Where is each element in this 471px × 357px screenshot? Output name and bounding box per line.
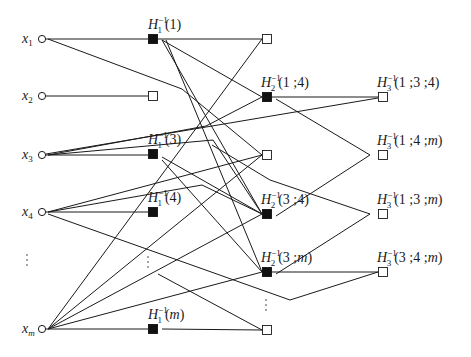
node-label: H−11(4)	[147, 188, 182, 208]
layer1-node-h1_2	[149, 92, 158, 101]
edge	[48, 155, 262, 329]
layer2-node-h2_a	[263, 35, 272, 44]
empty-square-icon	[263, 35, 272, 44]
empty-square-icon	[379, 210, 388, 219]
node-label: H−12(3 ;m)	[260, 248, 312, 268]
source-label: x2	[21, 88, 33, 105]
hierarchy-diagram: x1x2x3x4xm H−11(1)H−11(3)H−11(4)H−11(m) …	[0, 0, 471, 357]
source-node-x4: x4	[21, 204, 46, 221]
filled-square-icon	[149, 35, 158, 44]
filled-square-icon	[263, 93, 272, 102]
source-node-x3: x3	[21, 147, 46, 164]
edge	[276, 214, 370, 274]
node-label: H−12(3 ;4)	[260, 190, 309, 210]
vertical-ellipsis-icon	[265, 299, 267, 311]
filled-square-icon	[149, 208, 158, 217]
vertical-ellipsis-icon	[26, 254, 28, 266]
node-label: H−13(1 ;4 ;m)	[376, 131, 443, 151]
source-label: x4	[21, 204, 33, 221]
edge	[162, 329, 262, 330]
source-label: xm	[21, 321, 35, 338]
node-label: H−13(1 ;3 ;m)	[376, 190, 443, 210]
edge	[162, 40, 262, 97]
node-label: H−11(m)	[147, 305, 185, 325]
empty-square-icon	[379, 268, 388, 277]
node-label: H−13(3 ;4 ;m)	[376, 248, 443, 268]
node-label: H−11(1)	[147, 15, 182, 35]
source-circle-icon	[38, 325, 45, 332]
source-node-xm: xm	[21, 321, 46, 338]
empty-square-icon	[149, 92, 158, 101]
empty-square-icon	[379, 93, 388, 102]
source-label: x1	[21, 31, 33, 48]
empty-square-icon	[263, 326, 272, 335]
node-label: H−12(1 ;4)	[260, 73, 309, 93]
empty-square-icon	[379, 151, 388, 160]
layer2-node-h2_c	[263, 326, 272, 335]
node-label: H−11(3)	[147, 130, 182, 150]
source-label: x3	[21, 147, 33, 164]
layer3-node-h3_14m: H−13(1 ;4 ;m)	[376, 131, 443, 160]
layer3-node-h3_34m: H−13(3 ;4 ;m)	[376, 248, 443, 277]
filled-square-icon	[263, 268, 272, 277]
empty-square-icon	[263, 151, 272, 160]
edge	[162, 160, 262, 272]
edge	[48, 214, 378, 300]
layer2-node-h2_34: H−12(3 ;4)	[260, 190, 309, 219]
source-node-x1: x1	[21, 31, 46, 48]
source-circle-icon	[38, 92, 45, 99]
source-node-x2: x2	[21, 88, 46, 105]
layer3-node-h3_13m: H−13(1 ;3 ;m)	[376, 190, 443, 219]
source-circle-icon	[38, 151, 45, 158]
filled-square-icon	[149, 150, 158, 159]
layer3-node-h3_134: H−13(1 ;3 ;4)	[376, 73, 440, 102]
source-nodes: x1x2x3x4xm	[21, 31, 46, 338]
edges	[46, 39, 378, 330]
filled-square-icon	[149, 325, 158, 334]
source-circle-icon	[38, 35, 45, 42]
layer-3-nodes: H−13(1 ;3 ;4)H−13(1 ;4 ;m)H−13(1 ;3 ;m)H…	[376, 73, 443, 277]
source-circle-icon	[38, 208, 45, 215]
layer2-node-h2_b	[263, 151, 272, 160]
layer1-node-h1_4: H−11(4)	[147, 188, 182, 217]
vertical-ellipsis-icon	[147, 256, 149, 268]
layer-2-nodes: H−12(1 ;4)H−12(3 ;4)H−12(3 ;m)	[260, 35, 312, 335]
filled-square-icon	[263, 210, 272, 219]
node-label: H−13(1 ;3 ;4)	[376, 73, 440, 93]
edge	[166, 40, 262, 272]
